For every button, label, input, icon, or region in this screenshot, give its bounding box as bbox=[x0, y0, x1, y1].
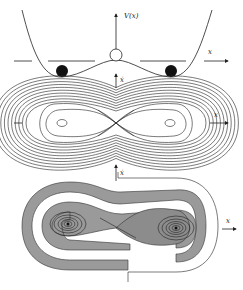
x-axis-label: x bbox=[208, 48, 212, 56]
potential-curve bbox=[22, 10, 212, 77]
potential-panel: V(x) x bbox=[14, 10, 228, 77]
xdot-axis-label: ẋ bbox=[120, 169, 124, 177]
double-well-figure: V(x) x ẋ x bbox=[0, 0, 243, 290]
v-axis-label: V(x) bbox=[124, 12, 139, 20]
stable-ball-right bbox=[165, 65, 177, 77]
basins-panel: ẋ x bbox=[22, 165, 236, 282]
inner-orbits bbox=[40, 104, 193, 143]
phase-portrait-panel: ẋ x bbox=[0, 74, 238, 170]
unstable-ball bbox=[110, 49, 122, 61]
xdot-axis-label: ẋ bbox=[120, 76, 124, 84]
outer-orbits bbox=[0, 76, 238, 170]
stable-ball-left bbox=[56, 65, 68, 77]
x-axis-label: x bbox=[226, 217, 230, 225]
